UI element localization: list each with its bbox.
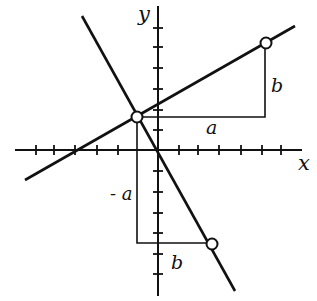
upper-right-point: [261, 38, 272, 49]
run-label-lower: - a: [110, 183, 133, 204]
run-label-upper: a: [206, 116, 217, 138]
upper-slope-triangle: [143, 49, 265, 117]
x-axis-label: x: [298, 151, 310, 175]
lower-slope-triangle: [137, 123, 206, 243]
lower-right-point: [207, 239, 218, 250]
perpendicular-lines-diagram: y x a b - a b: [0, 0, 317, 301]
y-axis-label: y: [137, 2, 151, 26]
intersection-point: [132, 112, 143, 123]
rise-label-lower: b: [171, 251, 183, 273]
rise-label-upper: b: [271, 74, 283, 96]
